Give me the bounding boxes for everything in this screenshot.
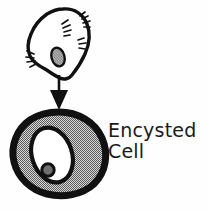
cyst-nucleolus [42, 164, 54, 176]
encystment-diagram: Encysted Cell [0, 0, 209, 210]
trophozoite-cell [26, 9, 90, 79]
encysted-cell-label-line-1: Encysted [108, 120, 196, 141]
arrow-head [50, 90, 68, 110]
encysted-cell-label-line-2: Cell [108, 141, 144, 162]
encysted-cell [13, 112, 106, 196]
diagram-canvas [0, 0, 209, 210]
